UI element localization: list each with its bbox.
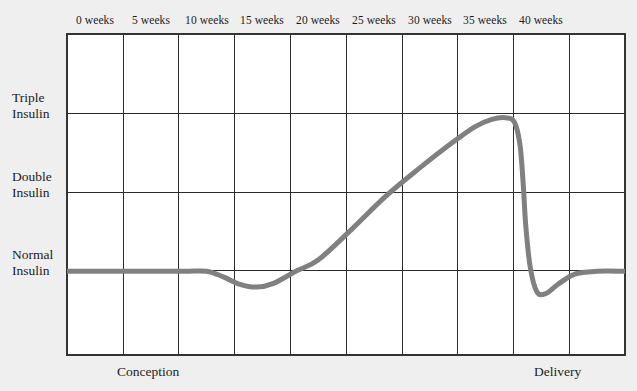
insulin-requirement-chart: 0 weeks 5 weeks 10 weeks 15 weeks 20 wee… <box>0 0 637 391</box>
plot-area <box>0 0 637 391</box>
